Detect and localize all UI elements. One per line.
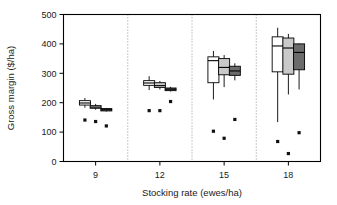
data-point-marker bbox=[94, 120, 97, 123]
data-point-marker bbox=[83, 118, 86, 121]
data-point-marker bbox=[169, 100, 172, 103]
y-axis-ticks: 0100200300400500 bbox=[41, 10, 63, 167]
x-tick-label: 9 bbox=[93, 170, 98, 180]
boxplot-series-1 bbox=[79, 28, 283, 122]
box-body bbox=[219, 59, 230, 75]
x-axis-ticks: 9121518 bbox=[93, 162, 293, 180]
x-tick-label: 12 bbox=[155, 170, 165, 180]
box-series-3-group-12 bbox=[165, 87, 176, 92]
data-point-marker bbox=[276, 140, 279, 143]
y-tick-label: 400 bbox=[41, 39, 56, 49]
y-axis-title: Gross margin ($/ha) bbox=[5, 46, 16, 130]
box-series-3-group-15 bbox=[229, 63, 240, 80]
x-axis-title: Stocking rate (ewes/ha) bbox=[142, 187, 242, 198]
chart-canvas: 0100200300400500 9121518 Gross margin ($… bbox=[0, 0, 337, 205]
data-point-marker bbox=[297, 131, 300, 134]
box-series-2-group-18 bbox=[283, 34, 294, 95]
data-point-marker bbox=[148, 109, 151, 112]
box-series-1-group-18 bbox=[272, 28, 283, 122]
data-point-marker bbox=[223, 137, 226, 140]
box-series-1-group-9 bbox=[79, 98, 90, 108]
x-tick-label: 18 bbox=[283, 170, 293, 180]
box-series-2-group-15 bbox=[219, 55, 230, 87]
box-series-3-group-9 bbox=[101, 108, 112, 112]
box-body bbox=[283, 38, 294, 74]
y-tick-label: 200 bbox=[41, 98, 56, 108]
box-body bbox=[272, 37, 283, 72]
box-body bbox=[154, 83, 165, 88]
box-series-3-group-18 bbox=[294, 43, 305, 89]
data-point-marker bbox=[105, 124, 108, 127]
box-series-2-group-9 bbox=[90, 104, 101, 110]
box-series-2-group-12 bbox=[154, 81, 165, 90]
box-series-1-group-15 bbox=[208, 51, 219, 100]
x-tick-label: 15 bbox=[219, 170, 229, 180]
box-series-1-group-12 bbox=[144, 76, 155, 90]
boxplot-figure: 0100200300400500 9121518 Gross margin ($… bbox=[0, 0, 337, 205]
y-tick-label: 100 bbox=[41, 127, 56, 137]
y-tick-label: 500 bbox=[41, 10, 56, 20]
data-point-marker bbox=[233, 118, 236, 121]
y-tick-label: 0 bbox=[51, 157, 56, 167]
box-body bbox=[294, 44, 305, 70]
y-tick-label: 300 bbox=[41, 69, 56, 79]
data-point-marker bbox=[287, 152, 290, 155]
data-point-marker bbox=[212, 130, 215, 133]
data-point-marker bbox=[158, 109, 161, 112]
group-separator-lines bbox=[128, 15, 257, 162]
